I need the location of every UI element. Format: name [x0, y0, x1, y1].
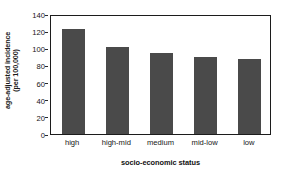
y-tick-mark: [45, 83, 48, 84]
bar: [194, 57, 217, 134]
y-tick-label: 100: [32, 45, 45, 54]
y-tick-mark: [45, 32, 48, 33]
y-axis-ticks: 020406080100120140: [24, 0, 48, 182]
y-tick-mark: [45, 135, 48, 136]
x-tick-label: low: [243, 138, 254, 147]
bar: [62, 29, 85, 134]
bar-chart-figure: age-adjusted incidence (per 100,000) 020…: [0, 0, 289, 182]
y-tick-mark: [45, 117, 48, 118]
y-tick-mark: [45, 100, 48, 101]
y-tick-label: 140: [32, 11, 45, 20]
y-tick-label: 40: [37, 96, 45, 105]
x-tick-label: high: [65, 138, 79, 147]
y-axis-title: age-adjusted incidence (per 100,000): [0, 0, 26, 140]
x-tick-label: mid-low: [192, 138, 218, 147]
bar-series: [51, 16, 270, 134]
y-tick-mark: [45, 15, 48, 16]
x-tick-label: medium: [147, 138, 174, 147]
bar: [150, 53, 173, 134]
y-tick-label: 20: [37, 113, 45, 122]
y-tick-label: 60: [37, 79, 45, 88]
bar: [106, 47, 129, 134]
y-tick-label: 120: [32, 28, 45, 37]
x-axis-ticks: highhigh-midmediummid-lowlow: [50, 138, 271, 150]
y-tick-label: 80: [37, 62, 45, 71]
y-tick-mark: [45, 49, 48, 50]
x-tick-label: high-mid: [102, 138, 131, 147]
bar: [238, 59, 261, 134]
plot-area: [50, 15, 271, 135]
y-tick-mark: [45, 66, 48, 67]
x-axis-title: socio-economic status: [50, 158, 271, 167]
y-axis-title-line2: (per 100,000): [13, 31, 21, 108]
